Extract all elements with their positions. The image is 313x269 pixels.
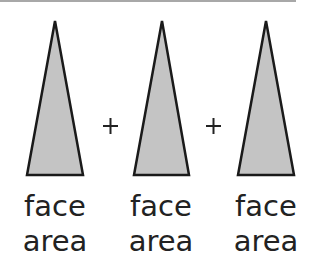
face-3-label-line1: face	[226, 189, 306, 223]
face-1-label-line1: face	[15, 189, 95, 223]
triangle-face-2	[134, 21, 189, 175]
face-1-label-line2: area	[15, 224, 95, 258]
face-2-label-line1: face	[121, 189, 201, 223]
triangle-face-3	[238, 21, 294, 175]
face-3-label-line2: area	[226, 224, 306, 258]
face-2-label-line2: area	[121, 224, 201, 258]
plus-icon-2	[206, 118, 221, 134]
plus-icon-1	[103, 118, 118, 134]
triangle-face-1	[27, 21, 83, 175]
